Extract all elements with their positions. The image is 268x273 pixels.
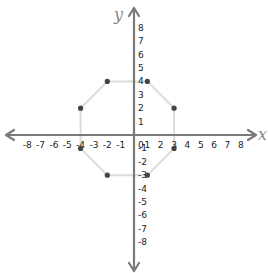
y-tick-label: -4	[138, 184, 147, 194]
y-axis-label: y	[113, 5, 124, 24]
vertex-point	[171, 146, 176, 151]
x-axis-label: x	[258, 125, 267, 144]
x-tick-label: 2	[158, 140, 164, 150]
x-tick-label: 8	[238, 140, 244, 150]
y-tick-label: 5	[138, 63, 144, 73]
x-tick-label: 6	[211, 140, 217, 150]
y-tick-label: 3	[138, 90, 144, 100]
y-tick-label: -8	[138, 237, 147, 247]
x-tick-label: -5	[63, 140, 72, 150]
x-tick-label: -2	[103, 140, 112, 150]
coordinate-plane: x y -8-7-6-5-4-3-2-1012345678 87654321-1…	[0, 0, 268, 273]
x-tick-label: -3	[89, 140, 98, 150]
y-tick-label: 6	[138, 50, 144, 60]
y-tick-label: 8	[138, 23, 144, 33]
x-tick-label: -7	[36, 140, 45, 150]
x-tick-label: 5	[198, 140, 204, 150]
y-tick-label: -1	[138, 143, 147, 153]
octagon-outline	[81, 81, 174, 175]
vertex-point	[105, 173, 110, 178]
y-tick-label: -6	[138, 210, 147, 220]
vertex-point	[171, 106, 176, 111]
y-tick-label: -7	[138, 224, 147, 234]
x-tick-label: 7	[225, 140, 231, 150]
x-tick-label: -1	[116, 140, 125, 150]
vertex-point	[78, 106, 83, 111]
y-tick-label: -5	[138, 197, 147, 207]
x-axis	[6, 130, 256, 140]
x-tick-label: -8	[23, 140, 32, 150]
octagon	[81, 81, 174, 175]
y-tick-label: 7	[138, 36, 144, 46]
vertex-points	[78, 79, 177, 178]
vertex-point	[145, 79, 150, 84]
vertex-point	[145, 173, 150, 178]
y-tick-label: -2	[138, 157, 147, 167]
x-tick-label: 4	[185, 140, 191, 150]
vertex-point	[78, 146, 83, 151]
x-tick-label: -6	[49, 140, 58, 150]
vertex-point	[105, 79, 110, 84]
y-tick-label: 1	[138, 117, 144, 127]
y-tick-label: 2	[138, 103, 144, 113]
y-tick-label: 4	[138, 76, 144, 86]
